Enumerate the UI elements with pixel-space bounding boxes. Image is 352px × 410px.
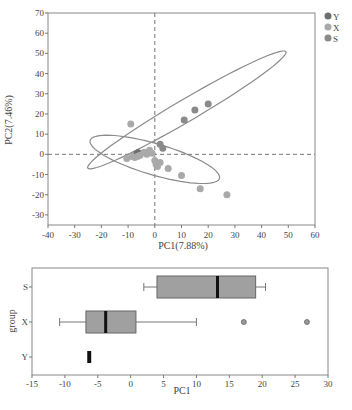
- outlier-point: [241, 320, 246, 325]
- x-axis-ticks: -40-30-20-100102030405060: [42, 225, 320, 240]
- point-x: [223, 191, 230, 198]
- box-x: [60, 311, 310, 333]
- point-s: [159, 145, 166, 152]
- boxes: [60, 276, 310, 363]
- pc1-boxplot: -15-10-5051015202530 SXY PC1 group: [6, 268, 333, 396]
- x-tick-label: -30: [69, 230, 81, 240]
- x-tick-label: 10: [177, 230, 187, 240]
- y-tick-label: 0: [40, 149, 45, 159]
- outlier-point: [304, 320, 309, 325]
- y-axis-ticks: SXY: [22, 282, 33, 362]
- legend-s-marker: [325, 35, 332, 42]
- x-tick-label: 40: [257, 230, 267, 240]
- x-tick-label: 0: [128, 379, 133, 389]
- x-tick-label: -15: [26, 379, 38, 389]
- x-tick-label: -10: [122, 230, 134, 240]
- box-y: [87, 351, 91, 363]
- x-tick-label: 25: [291, 379, 301, 389]
- x-tick-label: 5: [161, 379, 166, 389]
- x-tick-label: 30: [324, 379, 334, 389]
- x-axis-label: PC1: [173, 385, 190, 396]
- x-tick-label: 15: [225, 379, 235, 389]
- y-tick-label: 60: [35, 28, 45, 38]
- confidence-ellipses: [88, 51, 287, 184]
- point-x: [197, 185, 204, 192]
- box-iqr: [157, 276, 256, 298]
- x-tick-label: 20: [258, 379, 268, 389]
- point-x: [154, 160, 161, 167]
- legend-x-marker: [325, 24, 332, 31]
- y-tick-label: 40: [35, 69, 45, 79]
- y-tick-label: -20: [32, 190, 44, 200]
- box-iqr: [86, 311, 136, 333]
- y-axis-ticks: -30-20-10010203040506070: [32, 8, 48, 220]
- y-tick-label: 50: [35, 48, 45, 58]
- figure: -40-30-20-100102030405060 -30-20-1001020…: [0, 0, 352, 410]
- x-tick-label: 60: [311, 230, 321, 240]
- x-tick-label: 10: [192, 379, 202, 389]
- figure-svg: -40-30-20-100102030405060 -30-20-1001020…: [0, 0, 352, 410]
- box-s: [144, 276, 266, 298]
- pca-scatter-plot: -40-30-20-100102030405060 -30-20-1001020…: [3, 8, 340, 252]
- point-s: [191, 106, 198, 113]
- box-iqr: [87, 351, 91, 363]
- y-tick-label: -30: [32, 210, 44, 220]
- point-x: [127, 121, 134, 128]
- x-tick-label: 0: [153, 230, 158, 240]
- y-axis-label: PC2(7.46%): [3, 95, 15, 145]
- y-tick-label: S: [23, 282, 28, 292]
- legend-s-label: S: [333, 34, 338, 44]
- legend-y-marker: [325, 13, 332, 20]
- y-tick-label: 70: [35, 8, 45, 18]
- legend: Y X S: [325, 12, 341, 44]
- x-tick-label: 20: [204, 230, 214, 240]
- x-tick-label: 50: [284, 230, 294, 240]
- x-tick-label: -10: [59, 379, 71, 389]
- point-x: [149, 150, 156, 157]
- x-tick-label: -40: [42, 230, 54, 240]
- x-axis-label: PC1(7.88%): [158, 240, 208, 252]
- y-tick-label: 20: [35, 109, 45, 119]
- y-tick-label: 10: [35, 129, 45, 139]
- y-tick-label: 30: [35, 89, 45, 99]
- y-tick-label: X: [22, 317, 29, 327]
- x-tick-label: 30: [230, 230, 240, 240]
- point-s: [181, 117, 188, 124]
- x-tick-label: -20: [95, 230, 107, 240]
- point-x: [178, 172, 185, 179]
- y-axis-label: group: [6, 309, 17, 332]
- x-tick-label: -5: [94, 379, 102, 389]
- legend-x-label: X: [333, 23, 340, 33]
- point-x: [165, 165, 172, 172]
- y-tick-label: Y: [22, 352, 29, 362]
- legend-y-label: Y: [333, 12, 340, 22]
- y-tick-label: -10: [32, 170, 44, 180]
- point-s: [205, 100, 212, 107]
- ellipse-s: [88, 51, 287, 169]
